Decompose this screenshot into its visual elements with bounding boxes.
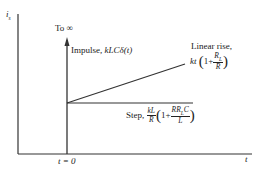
- y-axis-label: is: [6, 10, 11, 21]
- t-zero-label: t = 0: [58, 157, 76, 166]
- step-fraction-1: kL R: [147, 107, 157, 123]
- impulse-arrow-icon: [65, 37, 70, 46]
- linear-fraction: RL R: [213, 52, 223, 71]
- impulse-top-label: To ∞: [55, 24, 73, 33]
- step-label: Step, kL R (1+ RRLC L ): [126, 106, 195, 125]
- linear-rise-label-expr: kt (1+ RL R ): [190, 52, 228, 71]
- impulse-label: Impulse, kLCδ(t): [71, 46, 132, 55]
- x-axis-label: t: [245, 155, 248, 164]
- linear-rise-line: [67, 64, 185, 103]
- linear-rise-label-title: Linear rise,: [191, 42, 232, 51]
- diagram-canvas: [0, 0, 255, 174]
- step-fraction-2: RRLC L: [171, 106, 190, 125]
